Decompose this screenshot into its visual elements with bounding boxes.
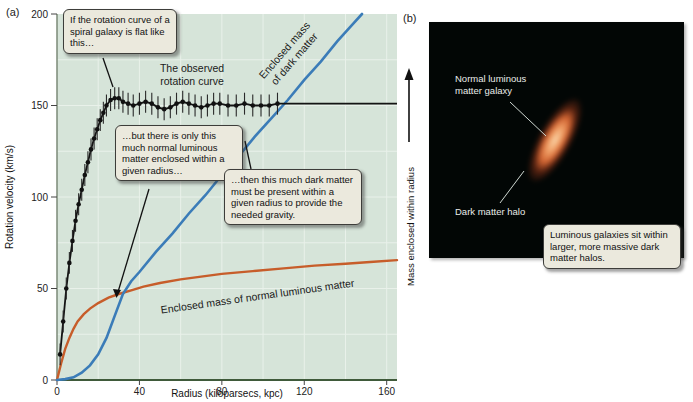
svg-text:The observed: The observed [160, 62, 224, 74]
callout-flat-curve: If the rotation curve of a spiral galaxy… [63, 9, 177, 54]
y-axis-label: Rotation velocity (km/s) [4, 145, 15, 249]
svg-text:40: 40 [134, 386, 146, 397]
mass-axis-arrow-icon [401, 68, 417, 146]
svg-text:50: 50 [37, 283, 49, 294]
svg-text:rotation curve: rotation curve [160, 75, 224, 87]
callout-halo: Luminous galaxies sit within larger, mor… [543, 224, 681, 269]
svg-text:0: 0 [42, 375, 48, 386]
galaxy-label: Normal luminous matter galaxy [455, 73, 545, 97]
observed-curve-label: The observedrotation curve [160, 62, 224, 87]
x-axis-label: Radius (kiloparsecs, kpc) [171, 388, 283, 399]
mass-axis-label: Mass enclosed within radius [405, 144, 416, 310]
svg-text:200: 200 [31, 9, 48, 20]
dark-matter-figure: (a) 04080120160050100150200Radius (kilop… [0, 0, 693, 402]
panel-b-label: (b) [403, 12, 416, 24]
svg-text:120: 120 [296, 386, 313, 397]
galaxy-photo: Normal luminous matter galaxy Dark matte… [429, 22, 684, 258]
halo-label: Dark matter halo [455, 206, 565, 218]
photo-pointer-lines [429, 22, 684, 258]
callout-dark-matter: …then this much dark matter must be pres… [224, 169, 362, 225]
svg-text:100: 100 [31, 192, 48, 203]
svg-text:150: 150 [31, 100, 48, 111]
svg-text:0: 0 [54, 386, 60, 397]
svg-text:160: 160 [378, 386, 395, 397]
